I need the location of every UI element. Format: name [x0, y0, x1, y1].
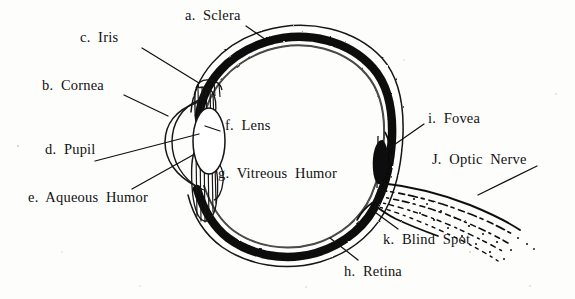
leader-aqueous-humor	[132, 155, 193, 189]
label-sclera: a. Sclera	[185, 8, 241, 23]
fovea-bulge	[373, 132, 391, 188]
label-fovea: i. Fovea	[428, 111, 480, 126]
label-retina: h. Retina	[344, 264, 402, 279]
label-iris: c. Iris	[80, 30, 118, 45]
eye-anatomy-diagram: a. Sclerac. Irisb. Corneaf. Lensi. Fovea…	[0, 0, 575, 299]
label-vitreous-humor: g. Vitreous Humor	[218, 166, 337, 181]
label-optic-nerve: J. Optic Nerve	[432, 152, 527, 167]
leader-pupil	[95, 134, 199, 161]
optic-nerve-fibers	[372, 183, 535, 261]
label-aqueous-humor: e. Aqueous Humor	[28, 190, 148, 205]
label-cornea: b. Cornea	[42, 78, 104, 93]
label-pupil: d. Pupil	[45, 142, 96, 157]
leader-cornea	[124, 95, 168, 116]
leader-iris	[142, 48, 199, 83]
label-lens: f. Lens	[225, 118, 271, 133]
retina-inner-edge	[204, 45, 384, 247]
leader-optic-nerve	[478, 166, 537, 195]
label-blind-spot: k. Blind Spot	[383, 232, 470, 247]
